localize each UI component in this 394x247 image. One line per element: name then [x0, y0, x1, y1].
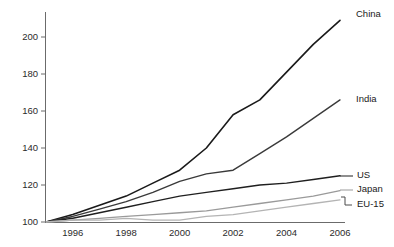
y-tick-label: 100 [22, 216, 38, 227]
y-tick-label: 140 [22, 142, 38, 153]
series-group [46, 20, 340, 222]
series-label-india: India [356, 93, 377, 104]
x-axis: 199619982000200220042006 [46, 223, 351, 239]
series-label-china: China [356, 8, 382, 19]
x-tick-label: 1998 [116, 227, 137, 238]
x-tick-label: 2004 [276, 227, 297, 238]
series-labels-group: ChinaIndiaUSJapanEU-15 [340, 8, 384, 209]
series-label-japan: Japan [357, 183, 383, 194]
chart-canvas: 100120140160180200 199619982000200220042… [0, 0, 394, 247]
y-axis-ticks: 100120140160180200 [22, 31, 45, 227]
series-label-eu-15: EU-15 [357, 198, 384, 209]
series-label-us: US [357, 169, 370, 180]
y-tick-label: 200 [22, 31, 38, 42]
line-chart: 100120140160180200 199619982000200220042… [0, 0, 394, 247]
series-line-india [46, 100, 340, 222]
x-tick-label: 2006 [329, 227, 350, 238]
leader-bracket-eu-15 [341, 197, 352, 205]
series-line-china [46, 20, 340, 222]
x-axis-ticks: 199619982000200220042006 [62, 227, 350, 238]
x-tick-label: 1996 [62, 227, 83, 238]
x-tick-label: 2002 [223, 227, 244, 238]
y-tick-label: 180 [22, 68, 38, 79]
y-axis: 100120140160180200 [22, 12, 45, 227]
x-tick-label: 2000 [169, 227, 190, 238]
y-tick-label: 160 [22, 105, 38, 116]
y-tick-label: 120 [22, 179, 38, 190]
